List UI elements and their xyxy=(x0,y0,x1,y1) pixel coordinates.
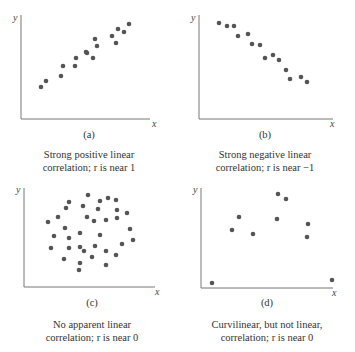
data-point xyxy=(263,56,268,61)
panel-c-x-label: x xyxy=(155,286,159,297)
data-point xyxy=(277,58,282,63)
data-point xyxy=(78,261,83,266)
data-point xyxy=(114,253,119,258)
data-point xyxy=(77,268,82,273)
data-point xyxy=(86,193,91,198)
data-point xyxy=(64,206,69,211)
data-point xyxy=(46,220,51,225)
scatter-panel-a xyxy=(21,15,150,119)
data-point xyxy=(115,216,120,221)
panel-a-label: (a) xyxy=(0,129,178,140)
panel-d-caption-line1: Curvilinear, but not linear, xyxy=(178,318,355,331)
data-point xyxy=(90,255,95,260)
data-point xyxy=(225,24,230,29)
data-point xyxy=(85,51,90,56)
data-point xyxy=(246,32,251,37)
data-point xyxy=(299,75,304,80)
data-point xyxy=(78,231,83,236)
data-point xyxy=(128,227,133,232)
data-point xyxy=(330,278,335,283)
data-point xyxy=(67,200,72,205)
panel-b-caption-line2: correlation; r is near −1 xyxy=(176,161,354,174)
data-point xyxy=(73,64,78,69)
panel-c-label: (c) xyxy=(3,297,181,308)
data-point xyxy=(67,236,72,241)
data-point xyxy=(122,30,127,35)
data-point xyxy=(93,244,98,249)
panel-d-caption: Curvilinear, but not linear, correlation… xyxy=(178,318,355,344)
data-point xyxy=(95,44,100,49)
panel-c-y-label: y xyxy=(16,184,20,195)
data-point xyxy=(104,249,109,254)
data-point xyxy=(52,234,57,239)
axes-a xyxy=(21,15,150,119)
scatter-panel-b xyxy=(199,15,333,119)
data-point xyxy=(230,228,235,233)
data-point xyxy=(91,56,96,61)
data-point xyxy=(98,233,103,238)
data-point xyxy=(62,257,67,262)
panel-c-caption-line1: No apparent linear xyxy=(3,318,181,331)
data-point xyxy=(251,232,256,237)
data-point xyxy=(78,245,83,250)
data-point xyxy=(210,281,215,286)
data-point xyxy=(63,226,68,231)
panel-c-caption-line2: correlation; r is near 0 xyxy=(3,331,181,344)
panel-b-caption-line1: Strong negative linear xyxy=(176,148,354,161)
data-point xyxy=(116,27,121,32)
data-point xyxy=(284,197,289,202)
data-point xyxy=(305,80,310,85)
data-point xyxy=(271,53,276,58)
data-point xyxy=(250,42,255,47)
data-point xyxy=(305,235,310,240)
data-point xyxy=(96,207,101,212)
panel-d-y-label: y xyxy=(193,184,197,195)
panel-a-caption: Strong positive linear correlation; r is… xyxy=(0,148,178,174)
panel-d-caption-line2: correlation; r is near 0 xyxy=(178,331,355,344)
panel-b-caption: Strong negative linear correlation; r is… xyxy=(176,148,354,174)
data-point xyxy=(92,219,97,224)
axes-b xyxy=(199,15,333,119)
data-point xyxy=(125,211,130,216)
data-point xyxy=(276,192,281,197)
scatter-panel-d xyxy=(201,188,334,288)
data-point xyxy=(81,204,86,209)
panel-a-caption-line2: correlation; r is near 1 xyxy=(0,161,178,174)
panel-b-x-label: x xyxy=(330,118,334,129)
data-point xyxy=(275,217,280,222)
panel-b-y-label: y xyxy=(191,12,195,23)
data-point xyxy=(59,74,64,79)
data-point xyxy=(258,43,263,48)
data-point xyxy=(74,56,79,61)
data-point xyxy=(114,41,119,46)
data-point xyxy=(306,222,311,227)
data-point xyxy=(67,246,72,251)
data-point xyxy=(127,22,132,27)
data-point xyxy=(114,198,119,203)
data-point xyxy=(131,238,136,243)
data-point xyxy=(104,218,109,223)
data-point xyxy=(56,215,61,220)
data-point xyxy=(49,246,54,251)
data-point xyxy=(288,77,293,82)
data-point xyxy=(98,199,103,204)
data-point xyxy=(232,24,237,29)
data-point xyxy=(236,34,241,39)
panel-c-caption: No apparent linear correlation; r is nea… xyxy=(3,318,181,344)
data-point xyxy=(39,85,44,90)
data-point xyxy=(44,79,49,84)
panel-d-label: (d) xyxy=(178,297,355,308)
data-point xyxy=(104,263,109,268)
data-point xyxy=(237,215,242,220)
data-point xyxy=(93,37,98,42)
axes-d xyxy=(201,188,333,288)
data-point xyxy=(61,64,66,69)
axes-c xyxy=(24,188,155,287)
data-point xyxy=(120,242,125,247)
data-point xyxy=(115,208,120,213)
panel-b-label: (b) xyxy=(176,129,354,140)
data-point xyxy=(85,215,90,220)
panel-a-y-label: y xyxy=(13,12,17,23)
scatter-panel-c xyxy=(24,188,155,287)
panel-a-caption-line1: Strong positive linear xyxy=(0,148,178,161)
